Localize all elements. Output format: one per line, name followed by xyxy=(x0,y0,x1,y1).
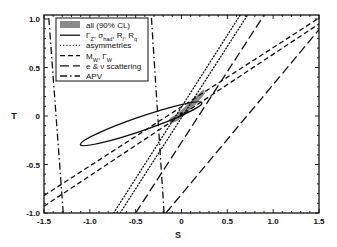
y-tick-label: -0.5 xyxy=(26,161,40,170)
y-axis-label: T xyxy=(11,111,17,121)
line-enu-1 xyxy=(136,15,264,213)
ellipse-gammaz xyxy=(78,96,204,151)
y-tick-label: 0 xyxy=(36,112,41,121)
y-tick-labels: -1.0-0.500.51.0 xyxy=(26,15,40,218)
x-tick-label: 1.0 xyxy=(268,217,280,226)
line-enu-2 xyxy=(166,30,319,213)
x-axis-label: S xyxy=(175,230,181,240)
y-tick-label: -1.0 xyxy=(26,209,40,218)
line-apv-2 xyxy=(151,15,164,213)
x-tick-labels: -1.5-1.0-0.500.51.01.5 xyxy=(37,217,325,226)
x-tick-label: 0 xyxy=(179,217,184,226)
y-tick-label: 0.5 xyxy=(29,64,41,73)
legend-label-enu: e & ν scattering xyxy=(86,62,141,71)
legend-label-asym: asymmetries xyxy=(86,41,131,50)
legend-label-apv: APV xyxy=(86,72,103,81)
x-tick-label: 0.5 xyxy=(222,217,234,226)
x-tick-label: 1.5 xyxy=(313,217,325,226)
legend: all (90% CL)ΓZ, σhad, Rl, RqasymmetriesM… xyxy=(56,18,148,81)
legend-label-all: all (90% CL) xyxy=(86,21,130,30)
x-tick-label: -0.5 xyxy=(129,217,143,226)
x-tick-label: -1.0 xyxy=(83,217,97,226)
chart: -1.5-1.0-0.500.51.01.5 -1.0-0.500.51.0 S… xyxy=(0,0,337,247)
x-tick-label: -1.5 xyxy=(37,217,51,226)
legend-swatch-all xyxy=(60,21,80,28)
y-tick-label: 1.0 xyxy=(29,15,41,24)
